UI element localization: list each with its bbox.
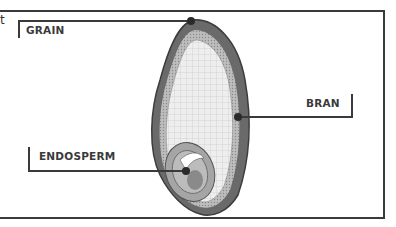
endosperm-marker-dot — [182, 167, 190, 175]
grain-marker-dot — [187, 17, 195, 25]
bran-marker-dot — [234, 113, 242, 121]
label-bran: BRAN — [306, 97, 340, 109]
label-endosperm: ENDOSPERM — [39, 150, 115, 162]
label-grain: GRAIN — [26, 24, 65, 36]
